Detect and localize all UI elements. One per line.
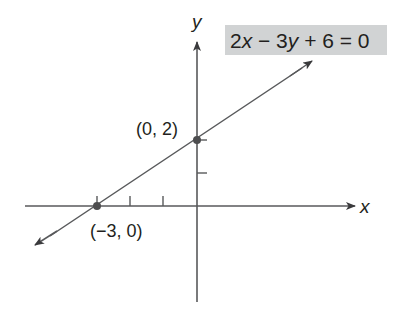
point-y-intercept [193,136,201,144]
line-arrow-lower [35,231,57,245]
equation-label: 2x − 3y + 6 = 0 [230,29,370,52]
point-x-intercept-label: (−3, 0) [90,221,143,241]
y-axis-label: y [190,11,203,32]
point-y-intercept-label: (0, 2) [136,119,178,139]
graph: 2x − 3y + 6 = 0 x y (−3, 0) (0, 2) [0,0,394,313]
line-arrow-upper [290,61,312,76]
equation-line [50,68,302,236]
y-ticks [197,140,207,173]
x-axis-label: x [359,196,371,217]
point-x-intercept [93,202,101,210]
